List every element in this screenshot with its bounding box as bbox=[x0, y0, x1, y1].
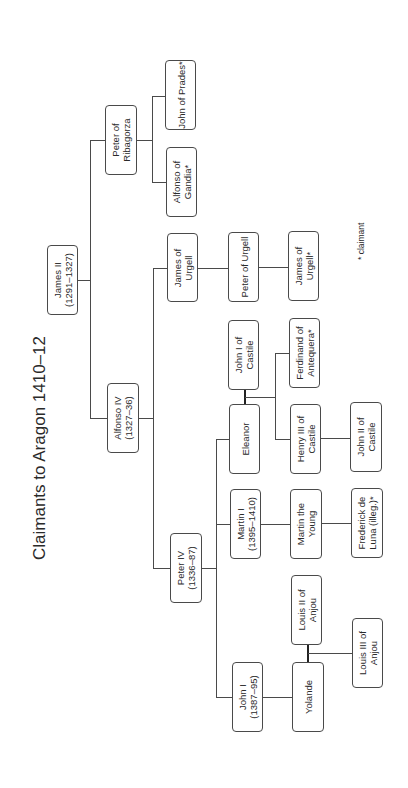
node-name: Ferdinand of bbox=[294, 318, 305, 388]
connector bbox=[90, 418, 107, 419]
node-dates: (1291–1327) bbox=[63, 245, 74, 315]
node-alfonso-iv: Alfonso IV(1327–36) bbox=[107, 383, 139, 453]
connector bbox=[153, 268, 154, 568]
node-name: Anjou bbox=[368, 618, 379, 688]
connector bbox=[263, 697, 292, 698]
connector bbox=[216, 439, 217, 698]
node-name: Peter of Urgell bbox=[238, 232, 249, 302]
connector bbox=[152, 96, 165, 97]
node-name: Frederick de bbox=[356, 488, 367, 558]
node-henry-iii-of-castile: Henry III ofCastile bbox=[290, 404, 321, 474]
node-frederick-de-luna: Frederick deLuna (illeg.)* bbox=[351, 488, 383, 558]
node-name: Peter IV bbox=[175, 533, 186, 603]
node-name: Castile bbox=[366, 402, 377, 472]
connector bbox=[202, 568, 216, 569]
node-name: Eleanor bbox=[239, 404, 250, 474]
connector bbox=[216, 439, 229, 440]
connector bbox=[245, 397, 275, 398]
node-name: James of bbox=[172, 233, 183, 303]
connector bbox=[153, 268, 167, 269]
node-peter-iv: Peter IV(1336–87) bbox=[170, 533, 202, 603]
node-name: Yolande bbox=[303, 662, 314, 732]
node-name: James II bbox=[52, 245, 63, 315]
node-name: Antequera* bbox=[305, 318, 316, 388]
node-name: Urgell* bbox=[304, 231, 315, 301]
node-name: Alfonso IV bbox=[112, 383, 123, 453]
node-name: Castile bbox=[244, 320, 255, 390]
node-john-i-of-castile: John I ofCastile bbox=[228, 320, 259, 390]
node-name: John of Prades* bbox=[175, 60, 186, 130]
node-dates: (1387–95) bbox=[248, 662, 259, 732]
connector bbox=[90, 140, 91, 419]
connector bbox=[216, 524, 230, 525]
node-alfonso-of-gandia: Alfonso ofGandia* bbox=[166, 147, 197, 217]
node-louis-iii-of-anjou: Louis III ofAnjou bbox=[352, 618, 383, 688]
node-dates: (1395–1410) bbox=[246, 489, 257, 559]
connector bbox=[275, 353, 289, 354]
node-martin-the-young: Martin theYoung bbox=[290, 489, 322, 559]
connector bbox=[275, 353, 276, 440]
connector bbox=[78, 280, 90, 281]
connector bbox=[152, 96, 153, 183]
node-john-ii-of-castile: John II ofCastile bbox=[350, 402, 382, 472]
node-name: John I bbox=[237, 662, 248, 732]
node-john-of-prades: John of Prades* bbox=[165, 60, 196, 130]
node-yolande: Yolande bbox=[292, 662, 324, 732]
node-louis-ii-of-anjou: Louis II ofAnjou bbox=[291, 575, 322, 645]
connector bbox=[216, 697, 232, 698]
node-eleanor: Eleanor bbox=[229, 404, 260, 474]
node-name: Henry III of bbox=[295, 404, 306, 474]
node-james-ii: James II(1291–1327) bbox=[47, 245, 78, 315]
node-name: Gandia* bbox=[182, 147, 193, 217]
node-martin-i: Martin I(1395–1410) bbox=[230, 489, 261, 559]
connector bbox=[137, 140, 152, 141]
node-name: Ribagorza bbox=[121, 105, 132, 175]
node-name: Castile bbox=[306, 404, 317, 474]
node-peter-of-urgell: Peter of Urgell bbox=[228, 232, 259, 302]
node-peter-of-ribagorza: Peter ofRibagorza bbox=[105, 105, 137, 175]
node-name: Anjou bbox=[307, 575, 318, 645]
connector bbox=[90, 140, 105, 141]
connector bbox=[321, 438, 350, 439]
node-name: Urgell bbox=[183, 233, 194, 303]
node-name: Alfonso of bbox=[171, 147, 182, 217]
node-name: Young bbox=[306, 489, 317, 559]
node-dates: (1327–36) bbox=[123, 383, 134, 453]
node-john-i: John I(1387–95) bbox=[232, 662, 263, 732]
connector bbox=[308, 653, 352, 654]
node-name: Louis II of bbox=[296, 575, 307, 645]
node-dates: (1336–87) bbox=[186, 533, 197, 603]
connector bbox=[198, 268, 228, 269]
connector bbox=[261, 524, 290, 525]
node-name: Luna (illeg.)* bbox=[367, 488, 378, 558]
connector bbox=[153, 568, 170, 569]
node-james-of-urgell-claimant: James ofUrgell* bbox=[288, 231, 319, 301]
node-name: John I of bbox=[233, 320, 244, 390]
node-name: John II of bbox=[355, 402, 366, 472]
connector bbox=[259, 267, 288, 268]
node-name: James of bbox=[293, 231, 304, 301]
node-name: Martin the bbox=[295, 489, 306, 559]
legend-claimant: * claimant bbox=[356, 200, 370, 260]
node-ferdinand-of-antequera: Ferdinand ofAntequera* bbox=[289, 318, 320, 388]
connector bbox=[322, 523, 351, 524]
connector bbox=[275, 439, 290, 440]
connector bbox=[152, 182, 166, 183]
node-name: Louis III of bbox=[357, 618, 368, 688]
connector bbox=[139, 418, 153, 419]
node-james-of-urgell: James ofUrgell bbox=[167, 233, 198, 302]
node-name: Peter of bbox=[110, 105, 121, 175]
node-name: Martin I bbox=[235, 489, 246, 559]
